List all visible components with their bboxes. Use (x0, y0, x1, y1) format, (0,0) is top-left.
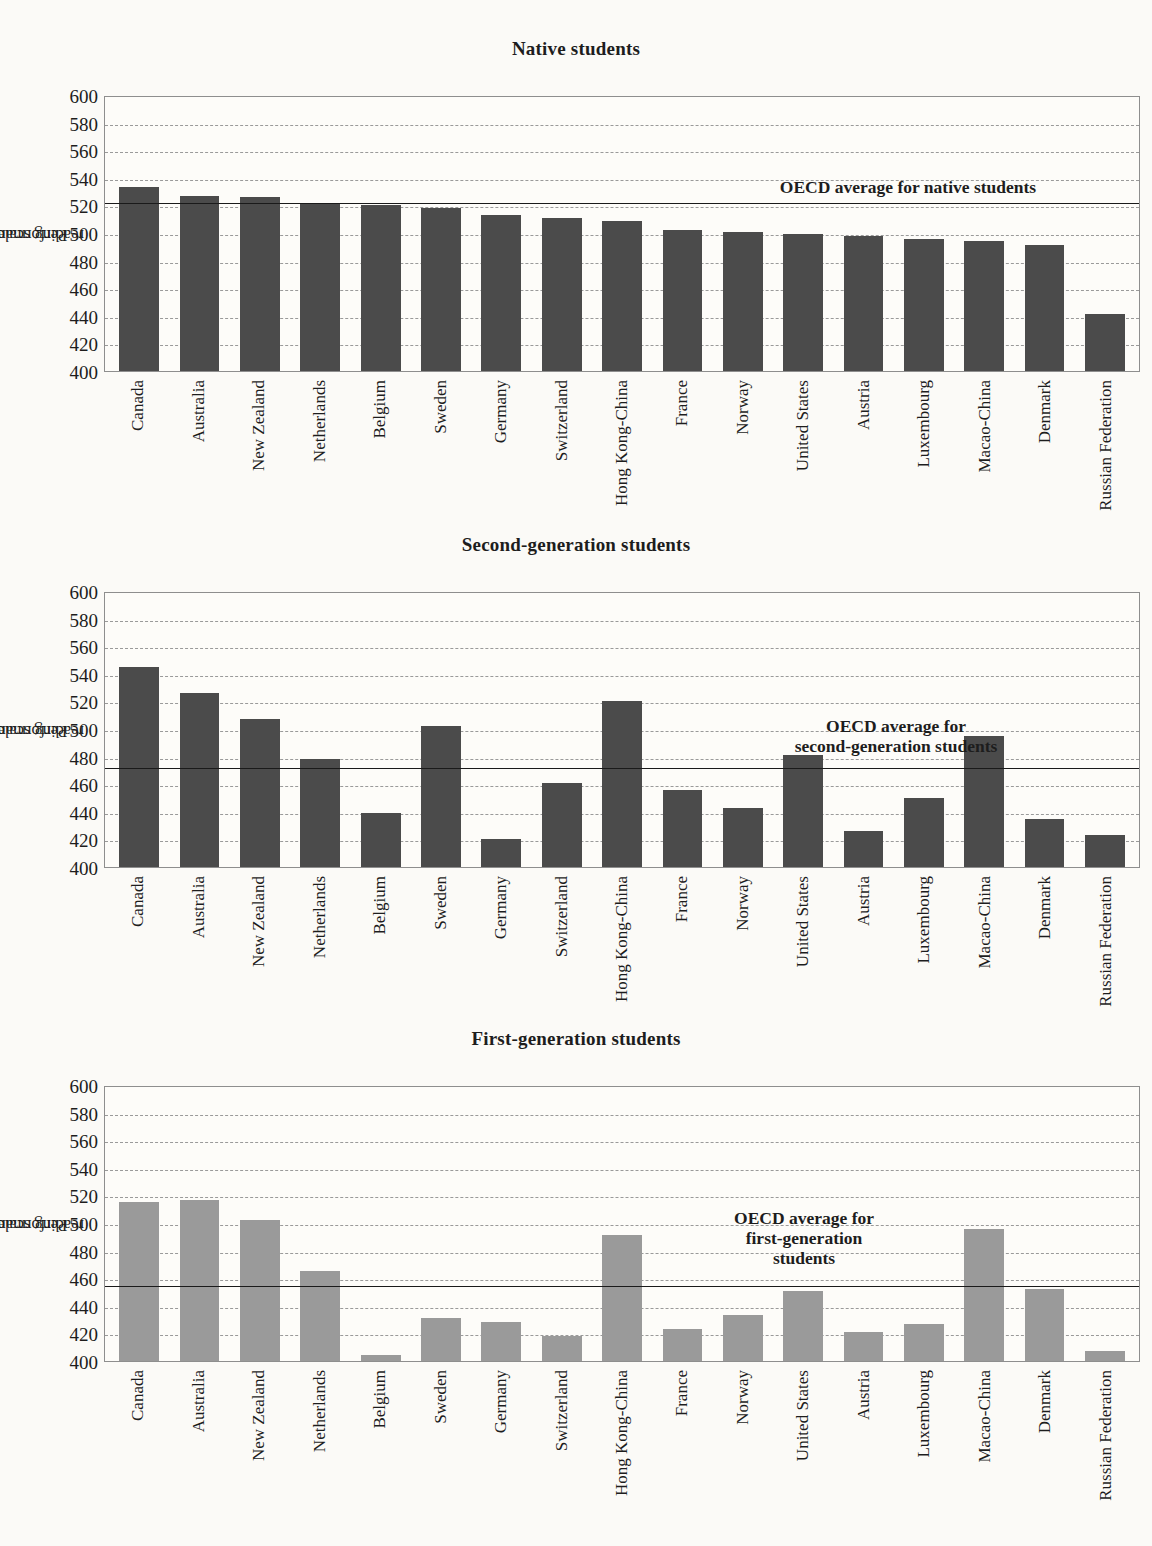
bar-slot[interactable] (1075, 97, 1135, 371)
bar-switzerland[interactable] (542, 783, 582, 867)
bar-slot[interactable] (1075, 1087, 1135, 1361)
x-axis-label: Canada (128, 1370, 148, 1421)
bar-slot[interactable] (411, 593, 471, 867)
bar-new-zealand[interactable] (240, 197, 280, 371)
bar-belgium[interactable] (361, 205, 401, 371)
y-tick-label: 580 (70, 1104, 99, 1123)
bar-canada[interactable] (119, 187, 159, 371)
x-label-slot: Austria (834, 374, 894, 554)
bar-slot[interactable] (290, 97, 350, 371)
bar-slot[interactable] (592, 593, 652, 867)
bar-germany[interactable] (481, 839, 521, 867)
bar-slot[interactable] (350, 1087, 410, 1361)
bar-hong-kong-china[interactable] (602, 221, 642, 371)
bar-belgium[interactable] (361, 813, 401, 867)
bar-slot[interactable] (954, 97, 1014, 371)
bar-netherlands[interactable] (300, 203, 340, 371)
x-label-slot: Switzerland (531, 1364, 591, 1544)
bar-germany[interactable] (481, 215, 521, 371)
bar-sweden[interactable] (421, 208, 461, 371)
x-label-slot: Canada (108, 1364, 168, 1544)
bar-france[interactable] (663, 790, 703, 867)
bar-united-states[interactable] (783, 1291, 823, 1361)
bar-slot[interactable] (532, 1087, 592, 1361)
bar-slot[interactable] (713, 97, 773, 371)
bar-slot[interactable] (169, 97, 229, 371)
bar-germany[interactable] (481, 1322, 521, 1361)
bar-united-states[interactable] (783, 234, 823, 371)
bar-slot[interactable] (350, 97, 410, 371)
bar-netherlands[interactable] (300, 759, 340, 867)
bar-slot[interactable] (833, 97, 893, 371)
y-tick-label: 460 (70, 776, 99, 795)
bar-slot[interactable] (169, 593, 229, 867)
bar-australia[interactable] (180, 196, 220, 371)
bar-macao-china[interactable] (964, 1229, 1004, 1361)
x-label-slot: Norway (713, 870, 773, 1050)
bar-australia[interactable] (180, 1200, 220, 1361)
bar-denmark[interactable] (1025, 1289, 1065, 1361)
bar-slot[interactable] (894, 97, 954, 371)
bar-luxembourg[interactable] (904, 239, 944, 371)
x-axis-label: Norway (733, 876, 753, 931)
bar-russian-federation[interactable] (1085, 835, 1125, 867)
bar-slot[interactable] (290, 1087, 350, 1361)
bar-france[interactable] (663, 230, 703, 371)
bar-united-states[interactable] (783, 755, 823, 867)
bar-slot[interactable] (532, 593, 592, 867)
bar-slot[interactable] (1014, 1087, 1074, 1361)
bar-sweden[interactable] (421, 1318, 461, 1361)
bar-luxembourg[interactable] (904, 1324, 944, 1361)
x-label-slot: France (652, 870, 712, 1050)
bar-sweden[interactable] (421, 726, 461, 867)
x-axis-label: Netherlands (310, 1370, 330, 1452)
bar-new-zealand[interactable] (240, 719, 280, 867)
bar-russian-federation[interactable] (1085, 1351, 1125, 1361)
bar-slot[interactable] (350, 593, 410, 867)
bar-slot[interactable] (230, 1087, 290, 1361)
bar-luxembourg[interactable] (904, 798, 944, 867)
bar-austria[interactable] (844, 236, 884, 371)
bar-switzerland[interactable] (542, 1336, 582, 1361)
bar-new-zealand[interactable] (240, 1220, 280, 1361)
bar-denmark[interactable] (1025, 819, 1065, 867)
bar-switzerland[interactable] (542, 218, 582, 371)
bar-hong-kong-china[interactable] (602, 1235, 642, 1361)
bar-norway[interactable] (723, 808, 763, 867)
bar-slot[interactable] (471, 97, 531, 371)
bar-macao-china[interactable] (964, 241, 1004, 371)
bar-slot[interactable] (230, 97, 290, 371)
bar-norway[interactable] (723, 232, 763, 371)
x-label-slot: France (652, 1364, 712, 1544)
bar-slot[interactable] (109, 97, 169, 371)
bar-belgium[interactable] (361, 1355, 401, 1361)
x-axis-label: Macao-China (975, 876, 995, 969)
bar-slot[interactable] (290, 593, 350, 867)
bar-slot[interactable] (169, 1087, 229, 1361)
bar-slot[interactable] (109, 593, 169, 867)
bar-slot[interactable] (230, 593, 290, 867)
bar-slot[interactable] (411, 97, 471, 371)
x-axis-label: France (672, 1370, 692, 1416)
bar-slot[interactable] (109, 1087, 169, 1361)
bar-slot[interactable] (773, 97, 833, 371)
bar-russian-federation[interactable] (1085, 314, 1125, 371)
bar-slot[interactable] (532, 97, 592, 371)
bar-canada[interactable] (119, 1202, 159, 1361)
bar-hong-kong-china[interactable] (602, 701, 642, 867)
bar-slot[interactable] (592, 97, 652, 371)
bar-slot[interactable] (471, 1087, 531, 1361)
bar-austria[interactable] (844, 831, 884, 867)
bar-denmark[interactable] (1025, 245, 1065, 371)
bar-slot[interactable] (411, 1087, 471, 1361)
bar-norway[interactable] (723, 1315, 763, 1361)
bar-slot[interactable] (1014, 97, 1074, 371)
x-label-slot: Norway (713, 1364, 773, 1544)
bar-austria[interactable] (844, 1332, 884, 1361)
bar-slot[interactable] (471, 593, 531, 867)
bar-canada[interactable] (119, 667, 159, 867)
x-axis-label: Switzerland (552, 1370, 572, 1451)
bar-slot[interactable] (652, 97, 712, 371)
bar-australia[interactable] (180, 693, 220, 867)
bar-france[interactable] (663, 1329, 703, 1361)
